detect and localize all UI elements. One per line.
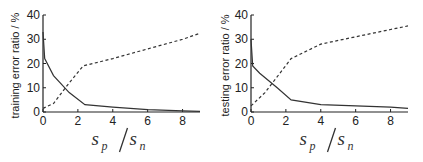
- x-tick-label: 6: [352, 114, 359, 128]
- series-dashed-line: [251, 26, 408, 106]
- x-tick-label: 6: [144, 114, 151, 128]
- x-axis-label-s: s: [300, 128, 307, 149]
- y-tick-label: 30: [235, 32, 249, 46]
- y-tick-label: 10: [27, 81, 41, 95]
- x-axis-label-s: s: [92, 128, 99, 149]
- x-axis-label-sub-p: p: [101, 139, 108, 153]
- y-axis-label: testing error ratio / %: [219, 14, 231, 116]
- x-axis-label-s: s: [130, 128, 137, 149]
- series-dashed-line: [43, 33, 200, 108]
- y-tick-label: 40: [27, 8, 41, 22]
- y-tick-label: 40: [235, 8, 249, 22]
- series-solid-line: [251, 39, 408, 108]
- x-tick-label: 8: [179, 114, 186, 128]
- y-tick-label: 20: [27, 57, 41, 71]
- series-solid-line: [43, 32, 200, 111]
- figure: 01020304002468training error ratio / %sp…: [0, 0, 423, 162]
- x-axis-label-sub-n: n: [140, 139, 146, 153]
- x-axis-label-s: s: [338, 128, 345, 149]
- x-tick-label: 0: [40, 114, 47, 128]
- y-tick-label: 10: [235, 81, 249, 95]
- x-tick-label: 0: [248, 114, 255, 128]
- x-tick-label: 2: [283, 114, 290, 128]
- x-tick-label: 8: [387, 114, 394, 128]
- y-axis-label: training error ratio / %: [9, 12, 21, 118]
- y-tick-label: 30: [27, 32, 41, 46]
- x-axis-label-sub-n: n: [348, 139, 354, 153]
- x-tick-label: 4: [109, 114, 116, 128]
- x-tick-label: 2: [75, 114, 82, 128]
- y-tick-label: 20: [235, 57, 249, 71]
- x-axis-label-slash: [328, 128, 336, 152]
- x-tick-label: 4: [317, 114, 324, 128]
- x-axis-label-slash: [120, 128, 128, 152]
- x-axis-label-sub-p: p: [309, 139, 316, 153]
